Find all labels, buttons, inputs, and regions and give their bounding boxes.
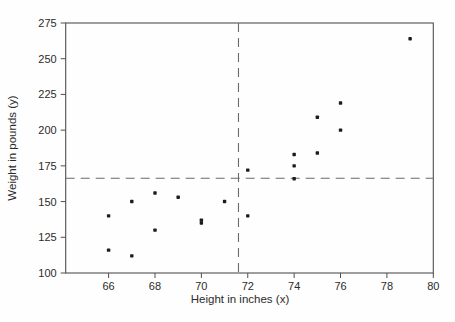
data-point	[153, 228, 156, 231]
data-point	[408, 37, 411, 40]
data-point	[246, 214, 249, 217]
y-tick-label: 175	[38, 160, 56, 172]
data-point	[176, 196, 179, 199]
x-axis-title: Height in inches (x)	[191, 293, 290, 305]
data-point	[339, 101, 342, 104]
y-tick-label: 250	[38, 53, 56, 65]
data-point	[292, 177, 295, 180]
y-axis-title: Weight in pounds (y)	[6, 95, 18, 200]
y-tick-label: 150	[38, 196, 56, 208]
data-point	[130, 200, 133, 203]
y-tick-label: 225	[38, 88, 56, 100]
data-point	[200, 218, 203, 221]
data-point	[316, 151, 319, 154]
x-tick-label: 66	[102, 280, 114, 292]
data-point	[153, 191, 156, 194]
x-tick-label: 74	[288, 280, 300, 292]
data-point	[130, 254, 133, 257]
scatter-plot-canvas: 6668707274767880100125150175200225250275…	[0, 0, 455, 322]
data-point	[339, 128, 342, 131]
plot-border	[66, 23, 434, 273]
figure-caption-clipped: Figure 4.1: Bivariate scatter plot of th…	[0, 312, 455, 318]
data-point	[107, 214, 110, 217]
data-point	[223, 200, 226, 203]
y-tick-label: 125	[38, 231, 56, 243]
x-tick-label: 76	[334, 280, 346, 292]
y-tick-label: 200	[38, 124, 56, 136]
data-point	[246, 168, 249, 171]
data-point	[292, 153, 295, 156]
x-tick-label: 70	[195, 280, 207, 292]
x-tick-label: 78	[381, 280, 393, 292]
y-tick-label: 275	[38, 17, 56, 29]
y-tick-label: 100	[38, 267, 56, 279]
x-tick-label: 68	[149, 280, 161, 292]
x-tick-label: 80	[427, 280, 439, 292]
x-tick-label: 72	[242, 280, 254, 292]
figure-caption-text: Figure 4.1: Bivariate scatter plot of th…	[115, 317, 339, 318]
data-point	[292, 164, 295, 167]
data-point	[107, 248, 110, 251]
data-point	[316, 116, 319, 119]
scatter-plot-figure: 6668707274767880100125150175200225250275…	[0, 0, 455, 322]
